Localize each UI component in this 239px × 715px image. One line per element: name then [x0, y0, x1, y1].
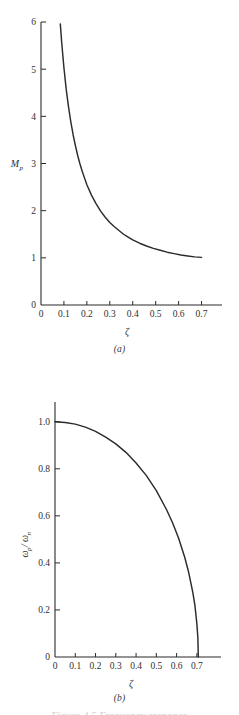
panel-b-caption: (b)	[0, 693, 239, 703]
x-tick-label: 0.1	[69, 661, 81, 671]
x-tick-label: 0	[53, 661, 58, 671]
x-tick-label: 0.6	[171, 661, 183, 671]
x-tick-label: 0.3	[104, 309, 116, 319]
x-axis-title: ζ	[125, 326, 130, 338]
x-tick-label: 0.3	[110, 661, 122, 671]
x-tick-label: 0.2	[90, 661, 102, 671]
y-axis-title: ωp/ωn	[19, 532, 33, 558]
svg-text:n: n	[25, 532, 33, 536]
x-tick-label: 0.4	[130, 661, 142, 671]
y-tick-label: 0.2	[38, 605, 50, 615]
y-tick-label: 0	[45, 652, 50, 662]
plot-panel-b: 00.10.20.30.40.50.60.700.20.40.60.81.0ζω…	[0, 360, 239, 715]
chart-a: 00.10.20.30.40.50.60.70123456ζMp	[0, 0, 239, 360]
y-tick-label: 5	[31, 65, 36, 75]
y-tick-label: 4	[31, 112, 36, 122]
chart-b: 00.10.20.30.40.50.60.700.20.40.60.81.0ζω…	[0, 360, 239, 715]
x-tick-label: 0.7	[196, 309, 208, 319]
y-tick-label: 6	[31, 17, 36, 27]
data-curve	[60, 24, 201, 257]
svg-text:/: /	[19, 543, 30, 548]
y-tick-label: 0	[31, 300, 36, 310]
y-tick-label: 1	[31, 253, 36, 263]
figure-page: 00.10.20.30.40.50.60.70123456ζMp (a) 00.…	[0, 0, 239, 715]
data-curve	[55, 422, 198, 657]
y-tick-label: 2	[31, 206, 36, 216]
x-tick-label: 0.2	[81, 309, 93, 319]
x-tick-label: 0	[39, 309, 44, 319]
x-tick-label: 0.5	[150, 661, 162, 671]
x-axis-title: ζ	[129, 678, 134, 690]
y-tick-label: 3	[31, 159, 36, 169]
svg-text:p: p	[19, 164, 24, 172]
plot-panel-a: 00.10.20.30.40.50.60.70123456ζMp	[0, 0, 239, 360]
y-tick-label: 0.6	[38, 511, 50, 521]
y-tick-label: 1.0	[38, 417, 50, 427]
panel-a-caption: (a)	[0, 344, 239, 354]
y-axis-title: Mp	[10, 158, 24, 172]
x-tick-label: 0.7	[191, 661, 203, 671]
x-tick-label: 0.1	[58, 309, 70, 319]
x-tick-label: 0.6	[173, 309, 185, 319]
x-tick-label: 0.4	[127, 309, 139, 319]
y-tick-label: 0.4	[38, 558, 50, 568]
figure-footer-text: Figure 4.5 Frequency response	[0, 709, 239, 715]
svg-text:M: M	[10, 158, 20, 169]
x-tick-label: 0.5	[150, 309, 162, 319]
y-tick-label: 0.8	[38, 464, 50, 474]
